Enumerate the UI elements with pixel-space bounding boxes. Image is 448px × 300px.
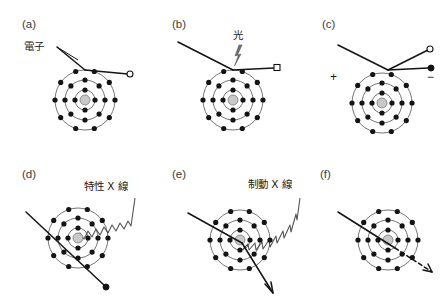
excited-electron-path-b (233, 68, 274, 70)
incident-electron-path-e (188, 213, 242, 243)
scattered-electron-path-c (388, 50, 428, 70)
panel-c-label: (c) (322, 18, 336, 30)
panel-b: (b) 光 (172, 18, 280, 131)
electron-label: 電子 (24, 40, 44, 52)
incident-electron-path-c (338, 45, 388, 70)
characteristic-xray-label: 特性 X 線 (84, 180, 129, 192)
atom-e (207, 209, 272, 271)
transmitted-electron-arrowhead-f (423, 264, 432, 272)
negative-sign-label: − (427, 70, 434, 84)
panel-e: (e) 制動 X 線 (172, 168, 300, 293)
bremsstrahlung-label: 制動 X 線 (248, 178, 293, 190)
panel-d-label: (d) (22, 168, 36, 180)
panel-a-label: (a) (22, 18, 36, 30)
ejected-electron-path-c (388, 68, 428, 70)
scattered-electron-marker-c (427, 46, 433, 52)
atom-b (200, 69, 265, 131)
electron-endpoint-marker-b (274, 65, 280, 71)
deflected-electron-arrowhead-e (265, 282, 273, 293)
light-label: 光 (233, 29, 244, 41)
atom-c (349, 72, 414, 134)
electron-endpoint-marker-d (103, 284, 109, 290)
atomic-interaction-figure: (a) 電子 (b) 光 (c) (0, 0, 448, 300)
figure-root: (a) 電子 (b) 光 (c) (0, 0, 448, 300)
scattered-electron-path-a (85, 70, 128, 74)
scattered-electron-marker-a (127, 71, 133, 77)
atom-f (355, 209, 420, 271)
incident-electron-path-b (178, 42, 233, 70)
panel-d: (d) 特性 X 線 (22, 168, 135, 290)
panel-f-label: (f) (320, 168, 331, 180)
panel-b-label: (b) (172, 18, 186, 30)
panel-c: (c) + − (322, 18, 434, 134)
incident-electron-path-a (57, 47, 85, 70)
atom-a (52, 69, 117, 131)
light-bolt-icon (235, 45, 243, 66)
panel-e-label: (e) (172, 168, 186, 180)
transmitted-electron-path-f (395, 248, 432, 272)
positive-sign-label: + (330, 70, 337, 84)
panel-f: (f) (320, 168, 432, 272)
panel-a: (a) 電子 (22, 18, 133, 131)
